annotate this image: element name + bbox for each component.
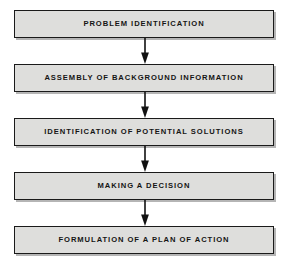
flowchart-node-label: PROBLEM IDENTIFICATION	[83, 20, 204, 28]
down-arrow-icon	[138, 38, 152, 64]
flowchart-node-label: IDENTIFICATION OF POTENTIAL SOLUTIONS	[44, 128, 243, 136]
flowchart-node-assembly-of-background-information: ASSEMBLY OF BACKGROUND INFORMATION	[14, 64, 274, 92]
flowchart-node-label: MAKING A DECISION	[98, 182, 191, 190]
flowchart-diagram: PROBLEM IDENTIFICATION ASSEMBLY OF BACKG…	[0, 0, 289, 265]
down-arrow-icon	[138, 200, 152, 226]
flowchart-node-label: ASSEMBLY OF BACKGROUND INFORMATION	[44, 74, 243, 82]
flowchart-node-identification-of-potential-solutions: IDENTIFICATION OF POTENTIAL SOLUTIONS	[14, 118, 274, 146]
flowchart-node-problem-identification: PROBLEM IDENTIFICATION	[14, 10, 274, 38]
down-arrow-icon	[138, 146, 152, 172]
flowchart-node-label: FORMULATION OF A PLAN OF ACTION	[58, 236, 229, 244]
flowchart-node-making-a-decision: MAKING A DECISION	[14, 172, 274, 200]
down-arrow-icon	[138, 92, 152, 118]
flowchart-node-formulation-of-a-plan-of-action: FORMULATION OF A PLAN OF ACTION	[14, 226, 274, 254]
